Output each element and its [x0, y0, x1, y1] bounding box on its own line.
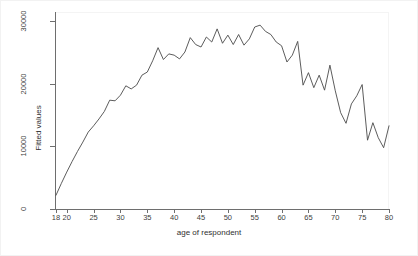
chart-figure: 0100002000030000 18202530354045505560657…	[0, 0, 418, 256]
fitted-values-path	[56, 25, 389, 195]
y-axis-title: Fitted values	[34, 105, 43, 150]
data-series-line	[0, 0, 418, 256]
x-axis-title: age of respondent	[0, 228, 418, 237]
